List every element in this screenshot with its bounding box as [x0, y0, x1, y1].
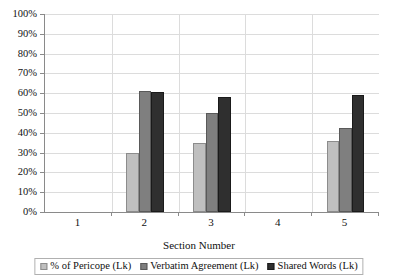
bar-verbatim-agreement-lk-cat-5: [339, 128, 351, 212]
gridline-horizontal: [45, 14, 379, 15]
x-axis-tick-label-2: 2: [111, 216, 178, 228]
bar-of-pericope-lk-cat-3: [193, 143, 205, 212]
y-axis-tick-label: 20%: [0, 167, 37, 177]
legend-item-1: % of Pericope (Lk): [40, 260, 131, 272]
x-axis-tick-mark: [178, 212, 179, 216]
bar-shared-words-lk-cat-3: [218, 97, 230, 212]
y-axis-tick-label: 70%: [0, 68, 37, 78]
x-axis-tick-mark: [111, 212, 112, 216]
y-axis-tick-label: 100%: [0, 9, 37, 19]
x-axis-tick-label-3: 3: [178, 216, 245, 228]
plot-area: [44, 14, 379, 213]
x-axis-tick-label-4: 4: [244, 216, 311, 228]
legend-item-label: Verbatim Agreement (Lk): [150, 260, 258, 272]
y-axis-tick-label: 10%: [0, 187, 37, 197]
y-axis-tick-label: 40%: [0, 128, 37, 138]
y-axis-tick-label: 90%: [0, 29, 37, 39]
legend-item-2: Verbatim Agreement (Lk): [140, 260, 258, 272]
bar-chart: 0%10%20%30%40%50%60%70%80%90%100% 12345 …: [0, 0, 398, 279]
gridline-vertical: [179, 14, 180, 212]
legend-item-label: % of Pericope (Lk): [50, 260, 131, 272]
bar-verbatim-agreement-lk-cat-2: [139, 91, 151, 212]
y-axis-tick-label: 80%: [0, 49, 37, 59]
x-axis-tick-label-5: 5: [311, 216, 378, 228]
gridline-horizontal: [45, 93, 379, 94]
x-axis-tick-label-1: 1: [44, 216, 111, 228]
bar-of-pericope-lk-cat-2: [126, 153, 138, 212]
x-axis-tick-mark: [244, 212, 245, 216]
y-axis-tick-label: 0%: [0, 207, 37, 217]
chart-legend: % of Pericope (Lk)Verbatim Agreement (Lk…: [34, 258, 363, 275]
gridline-vertical: [112, 14, 113, 212]
bar-of-pericope-lk-cat-5: [327, 141, 339, 212]
x-axis-tick-mark: [311, 212, 312, 216]
bar-verbatim-agreement-lk-cat-3: [206, 113, 218, 212]
y-axis-tick-label: 30%: [0, 148, 37, 158]
medium-gray-swatch: [140, 263, 147, 270]
legend-item-3: Shared Words (Lk): [268, 260, 358, 272]
y-axis-tick-label: 50%: [0, 108, 37, 118]
bar-shared-words-lk-cat-5: [352, 95, 364, 212]
x-axis-tick-mark: [378, 212, 379, 216]
y-axis-tick-label: 60%: [0, 88, 37, 98]
gridline-vertical: [312, 14, 313, 212]
gridline-horizontal: [45, 54, 379, 55]
dark-gray-swatch: [268, 263, 275, 270]
gridline-horizontal: [45, 73, 379, 74]
gridline-horizontal: [45, 34, 379, 35]
light-gray-swatch: [40, 263, 47, 270]
bar-shared-words-lk-cat-2: [151, 92, 163, 212]
gridline-vertical: [245, 14, 246, 212]
x-axis-title: Section Number: [0, 239, 398, 252]
legend-item-label: Shared Words (Lk): [278, 260, 358, 272]
